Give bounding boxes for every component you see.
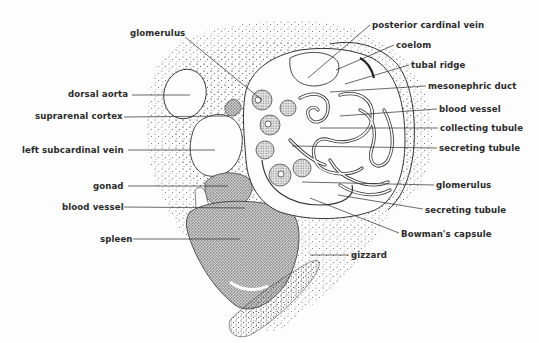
label-suprarenal-cortex: suprarenal cortex — [35, 111, 123, 121]
cross-section-illustration — [0, 0, 539, 343]
label-glomerulus-top: glomerulus — [130, 28, 185, 38]
label-blood-vessel-left: blood vessel — [62, 202, 124, 212]
label-collecting-tubule: collecting tubule — [440, 123, 523, 133]
label-posterior-cardinal-vein: posterior cardinal vein — [372, 20, 484, 30]
label-coelom: coelom — [396, 40, 431, 50]
diagram-canvas: glomerulus dorsal aorta suprarenal corte… — [0, 0, 539, 343]
label-secreting-tubule-bottom: secreting tubule — [425, 205, 506, 215]
label-tubal-ridge: tubal ridge — [411, 60, 466, 70]
label-gizzard: gizzard — [351, 250, 387, 260]
label-dorsal-aorta: dorsal aorta — [68, 89, 128, 99]
label-secreting-tubule-top: secreting tubule — [439, 143, 520, 153]
label-gonad: gonad — [93, 181, 124, 191]
label-left-subcardinal-vein: left subcardinal vein — [22, 145, 124, 155]
label-bowmans-capsule: Bowman's capsule — [401, 229, 492, 239]
label-mesonephric-duct: mesonephric duct — [428, 81, 516, 91]
label-glomerulus-right: glomerulus — [436, 180, 491, 190]
label-spleen: spleen — [100, 234, 133, 244]
label-blood-vessel-right: blood vessel — [439, 104, 501, 114]
